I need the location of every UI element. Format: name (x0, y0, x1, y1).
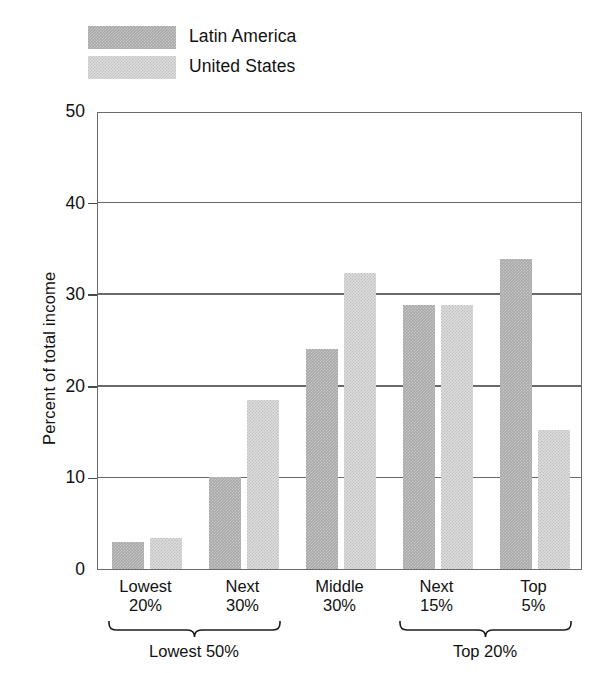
bar-latin-america-5 (500, 259, 532, 569)
bracket-shape (108, 620, 281, 638)
bar-latin-america-4 (403, 305, 435, 569)
bar-united-states-2 (247, 400, 279, 569)
bar-latin-america-3 (306, 349, 338, 569)
y-tick-mark-40 (88, 203, 97, 205)
bar-latin-america-2 (209, 477, 241, 569)
y-tick-label-40: 40 (39, 195, 85, 213)
y-tick-mark-30 (88, 294, 97, 296)
x-category-line2: 5% (474, 596, 594, 615)
legend-label-united-states: United States (189, 58, 295, 76)
bar-united-states-3 (344, 273, 376, 569)
y-tick-label-30: 30 (39, 286, 85, 304)
legend-item-united-states: United States (88, 52, 296, 82)
bracket-label-1: Lowest 50% (104, 643, 284, 660)
x-category-label-5: Top5% (474, 577, 594, 615)
bracket-shape (399, 620, 572, 638)
y-tick-label-10: 10 (39, 470, 85, 488)
y-tick-label-0: 0 (39, 561, 85, 579)
bar-latin-america-1 (112, 542, 144, 569)
bar-united-states-5 (538, 430, 570, 569)
y-tick-label-50: 50 (39, 103, 85, 121)
legend-swatch-united-states (88, 56, 176, 79)
chart-legend: Latin America United States (88, 22, 296, 82)
bracket-label-2: Top 20% (395, 643, 575, 660)
bracket-1 (108, 620, 281, 638)
bracket-2 (399, 620, 572, 638)
bar-united-states-4 (441, 305, 473, 569)
legend-label-latin-america: Latin America (189, 28, 296, 46)
legend-item-latin-america: Latin America (88, 22, 296, 52)
income-distribution-bar-chart: Latin America United States Percent of t… (0, 0, 611, 673)
y-tick-mark-20 (88, 386, 97, 388)
x-category-line1: Top (474, 577, 594, 596)
gridline-40 (98, 202, 581, 204)
y-tick-label-20: 20 (39, 378, 85, 396)
legend-swatch-latin-america (88, 26, 176, 49)
y-tick-mark-10 (88, 478, 97, 480)
bar-united-states-1 (150, 538, 182, 569)
plot-area (97, 112, 582, 570)
